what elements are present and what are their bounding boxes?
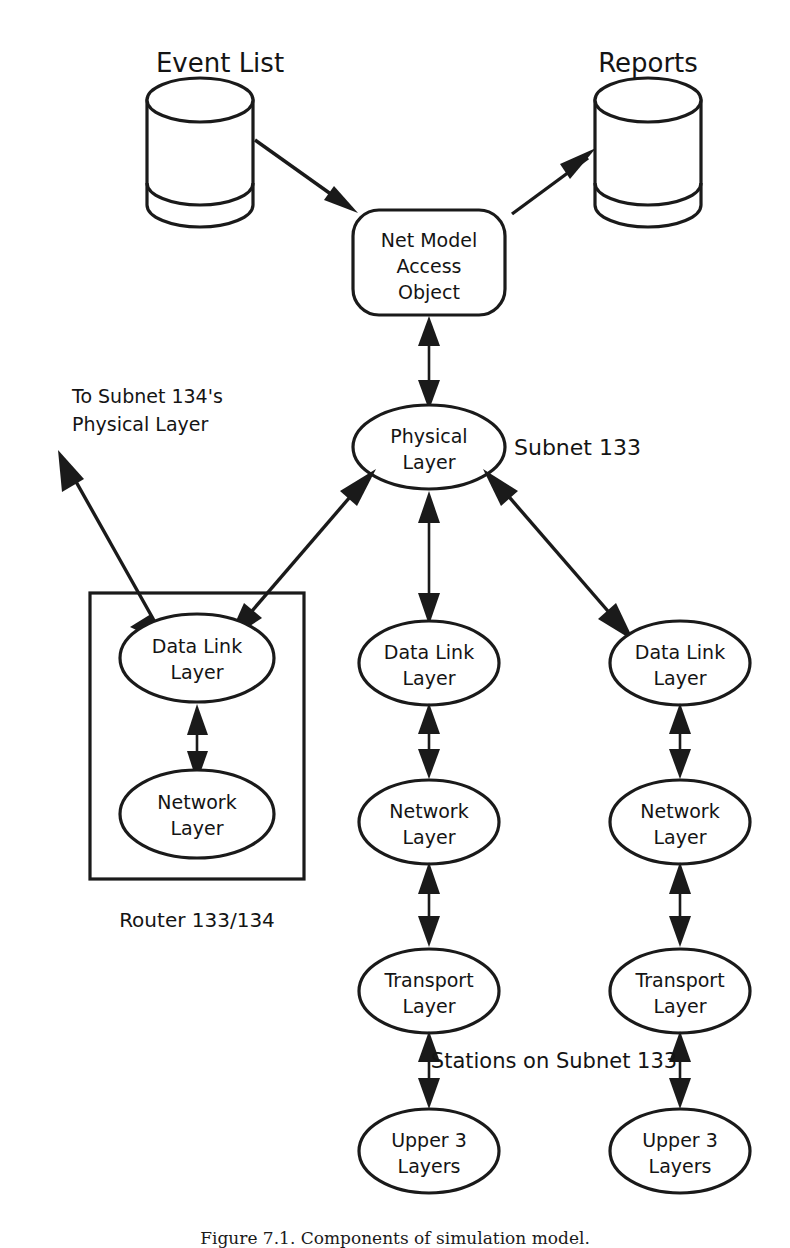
event-list-cylinder-top (147, 78, 253, 122)
to-subnet-134-line-2: Physical Layer (72, 413, 208, 435)
figure-root: Event List Reports Net Model Access (0, 0, 790, 1248)
station-right-dll-ellipse (610, 621, 750, 705)
router-dll-line-2: Layer (171, 661, 224, 683)
to-subnet-134-line-1: To Subnet 134's (71, 385, 223, 407)
diagram-canvas: Event List Reports Net Model Access (0, 0, 790, 1248)
connection-nmao-to-physical (418, 316, 440, 410)
physical-layer-line-1: Physical (390, 425, 467, 447)
station-right-dll-line-2: Layer (654, 667, 707, 689)
station-right-nl-line-2: Layer (654, 826, 707, 848)
station-middle-nl-line-1: Network (389, 800, 468, 822)
connection-event-list-to-nmao (255, 140, 358, 213)
station-right-nl-line-1: Network (640, 800, 719, 822)
router-data-link-layer-node: Data Link Layer (120, 614, 274, 702)
connection-mid-nl-to-mid-tl (418, 862, 440, 947)
right-dll-nl-arrowhead-down (669, 749, 691, 779)
mid-dll-nl-arrowhead-up (418, 703, 440, 734)
station-middle-dll-ellipse (359, 621, 499, 705)
physical-layer-ellipse (353, 405, 505, 489)
mid-tl-u3-arrowhead-down (418, 1078, 440, 1109)
physical-mid-dll-arrowhead-up (418, 491, 440, 523)
station-middle-dll-line-1: Data Link (384, 641, 474, 663)
router-nl-line-2: Layer (171, 817, 224, 839)
station-middle-tl-line-2: Layer (403, 995, 456, 1017)
stations-caption: Stations on Subnet 133 (431, 1049, 677, 1073)
event-list-to-nmao-line (255, 140, 342, 202)
event-list-to-nmao-arrowhead (324, 186, 358, 213)
station-middle-tl-line-1: Transport (383, 969, 473, 991)
connection-router-dll-to-subnet134 (58, 450, 168, 645)
physical-right-dll-line (497, 483, 620, 625)
station-right-u3-line-1: Upper 3 (642, 1129, 718, 1151)
connection-right-nl-to-right-tl (669, 862, 691, 947)
router-dll-subnet134-line (70, 471, 156, 624)
subnet-133-annotation: Subnet 133 (514, 435, 641, 460)
reports-label: Reports (598, 48, 698, 78)
connection-physical-to-right-dll (483, 469, 634, 641)
event-list-store: Event List (147, 48, 284, 227)
right-nl-tl-arrowhead-down (669, 916, 691, 947)
nmao-line-3: Object (398, 281, 460, 303)
station-right-tl-ellipse (610, 949, 750, 1033)
right-dll-nl-arrowhead-up (669, 703, 691, 734)
router-nl-line-1: Network (157, 791, 236, 813)
mid-dll-nl-arrowhead-down (418, 749, 440, 779)
router-caption: Router 133/134 (119, 908, 275, 932)
connection-mid-dll-to-mid-nl (418, 703, 440, 779)
physical-layer-node: Physical Layer (353, 405, 505, 489)
station-right-nl-ellipse (610, 780, 750, 864)
mid-nl-tl-arrowhead-up (418, 862, 440, 894)
router-dll-nl-arrowhead-up (187, 704, 208, 735)
station-middle-u3-line-1: Upper 3 (391, 1129, 467, 1151)
nmao-line-1: Net Model (381, 229, 477, 251)
connection-physical-to-router-dll (227, 469, 376, 641)
to-subnet-134-annotation: To Subnet 134's Physical Layer (71, 385, 223, 435)
station-middle-dll-line-2: Layer (403, 667, 456, 689)
mid-nl-tl-arrowhead-down (418, 916, 440, 947)
station-middle-u3-line-2: Layers (398, 1155, 461, 1177)
figure-caption: Figure 7.1. Components of simulation mod… (200, 1228, 590, 1248)
station-right-column: Data Link Layer Network Layer Transport … (610, 621, 750, 1193)
station-middle-u3-ellipse (359, 1109, 499, 1193)
nmao-physical-arrowhead-up (418, 316, 440, 346)
station-middle-nl-line-2: Layer (403, 826, 456, 848)
station-middle-tl-ellipse (359, 949, 499, 1033)
connection-physical-to-mid-dll (418, 491, 440, 625)
physical-router-dll-line (240, 483, 362, 625)
connection-nmao-to-reports (512, 148, 596, 214)
station-right-tl-line-2: Layer (654, 995, 707, 1017)
station-middle-nl-ellipse (359, 780, 499, 864)
station-right-tl-line-1: Transport (634, 969, 724, 991)
router-nl-ellipse (120, 770, 274, 858)
reports-cylinder-top (595, 78, 701, 122)
right-nl-tl-arrowhead-up (669, 862, 691, 894)
right-tl-u3-arrowhead-down (669, 1078, 691, 1109)
connection-right-dll-to-right-nl (669, 703, 691, 779)
physical-layer-line-2: Layer (403, 451, 456, 473)
router-dll-line-1: Data Link (152, 635, 242, 657)
station-right-dll-line-1: Data Link (635, 641, 725, 663)
event-list-label: Event List (156, 48, 284, 78)
reports-store: Reports (595, 48, 701, 227)
nmao-line-2: Access (396, 255, 461, 277)
station-right-u3-line-2: Layers (649, 1155, 712, 1177)
router-network-layer-node: Network Layer (120, 770, 274, 858)
router-dll-ellipse (120, 614, 274, 702)
station-right-u3-ellipse (610, 1109, 750, 1193)
station-middle-column: Data Link Layer Network Layer Transport … (359, 621, 499, 1193)
net-model-access-object-box: Net Model Access Object (353, 210, 505, 315)
